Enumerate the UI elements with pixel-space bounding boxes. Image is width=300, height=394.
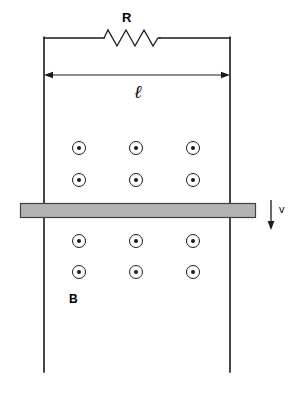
field-dot-center [134, 178, 138, 182]
field-dot-row-2 [73, 174, 200, 187]
field-dot-center [77, 178, 81, 182]
resistor-zigzag [104, 30, 160, 46]
field-dot-center [77, 270, 81, 274]
field-dot-center [77, 146, 81, 150]
resistor-label: R [122, 11, 131, 24]
field-dot-center [191, 146, 195, 150]
field-dot-center [191, 270, 195, 274]
dimension-arrowhead-left [44, 72, 53, 78]
diagram-canvas: R ℓ B v [0, 0, 300, 394]
velocity-arrow [268, 200, 275, 230]
circuit-diagram-svg [0, 0, 300, 394]
field-dot-row-1 [73, 142, 200, 155]
velocity-label: v [279, 204, 285, 215]
field-dot-center [77, 239, 81, 243]
magnetic-field-label: B [69, 293, 78, 305]
velocity-arrowhead [268, 221, 275, 230]
field-dot-center [134, 270, 138, 274]
sliding-bar [21, 204, 256, 218]
length-label: ℓ [134, 83, 142, 101]
field-dot-center [134, 239, 138, 243]
field-dot-row-4 [73, 266, 200, 279]
field-dot-center [134, 146, 138, 150]
field-dot-center [191, 239, 195, 243]
dimension-arrowhead-right [221, 72, 230, 78]
field-dot-row-3 [73, 235, 200, 248]
field-dot-center [191, 178, 195, 182]
length-dimension [44, 72, 230, 78]
